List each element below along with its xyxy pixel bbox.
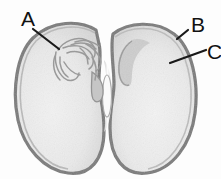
label-a: A [21,8,35,29]
label-b: B [191,14,205,35]
label-c: C [207,41,221,62]
hilum-lens [103,75,112,117]
bean-seed-figure: A B C [0,0,221,179]
